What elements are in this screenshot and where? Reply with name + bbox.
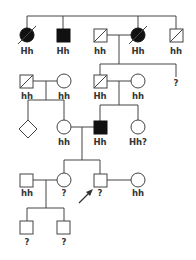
individual-IV-2 <box>57 173 71 187</box>
individual-I-3 <box>94 29 107 42</box>
individual-IV-1 <box>20 174 33 187</box>
genotype-label-IV-2: ? <box>62 188 67 198</box>
individual-II-1 <box>20 75 33 88</box>
genotype-label-V-2: ? <box>62 237 67 247</box>
individual-V-1 <box>20 221 33 234</box>
individual-III-3 <box>94 121 107 134</box>
individual-II-2 <box>57 74 71 88</box>
genotype-label-I-2: Hh <box>56 46 69 56</box>
individual-III-2 <box>57 120 71 134</box>
individual-V-2 <box>57 221 70 234</box>
proband-arrow-icon <box>79 189 93 203</box>
individual-IV-3-proband <box>94 174 107 187</box>
individual-I-1 <box>18 26 36 44</box>
genotype-label-I-1: Hh <box>20 46 33 56</box>
genotype-label-II-2: hh <box>58 91 70 101</box>
genotype-label-II-5: ? <box>174 78 179 88</box>
genotype-label-IV-1: hh <box>21 188 33 198</box>
individual-I-4 <box>129 26 147 44</box>
genotype-label-I-4: Hh <box>131 46 144 56</box>
genotype-label-I-3: hh <box>94 46 106 56</box>
individual-I-5 <box>170 29 183 42</box>
individual-I-2 <box>57 29 70 42</box>
individual-II-3 <box>94 75 107 88</box>
individual-III-1 <box>19 120 37 138</box>
genotype-label-III-3: Hh <box>93 137 106 147</box>
genotype-label-II-1: hh <box>21 91 33 101</box>
genotype-label-I-5: hh <box>170 46 182 56</box>
genotype-label-IV-3: ? <box>98 188 103 198</box>
genotype-label-II-4: hh <box>132 91 144 101</box>
genotype-label-III-2: hh <box>58 137 70 147</box>
individual-III-4 <box>131 120 145 134</box>
genotype-label-V-1: ? <box>25 237 30 247</box>
individual-II-4 <box>131 74 145 88</box>
pedigree-chart: Hh Hh hh Hh hh hh hh Hh hh ? hh Hh Hh? h… <box>0 0 196 260</box>
genotype-label-IV-4: hh <box>132 188 144 198</box>
individual-IV-4 <box>131 173 145 187</box>
genotype-label-III-4: Hh? <box>129 137 147 147</box>
genotype-label-II-3: Hh <box>93 91 106 101</box>
